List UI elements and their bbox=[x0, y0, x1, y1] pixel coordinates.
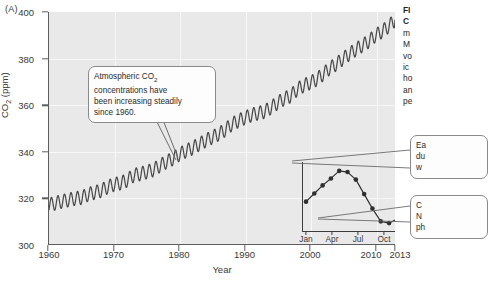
inset-seasonal-cycle: Jan Apr Jul Oct Jan bbox=[286, 162, 395, 245]
ytick-label-340: 340 bbox=[0, 146, 34, 157]
caption-body-line6: an bbox=[403, 85, 492, 96]
xtick-label-2000: 2000 bbox=[299, 249, 320, 260]
inset-xtick-apr: Apr bbox=[326, 234, 339, 244]
caption-body-line4: ic bbox=[403, 62, 492, 73]
callout-right-lower-line2: N bbox=[416, 212, 422, 221]
callout-right-upper: Ea du w bbox=[410, 135, 488, 179]
inset-data-point bbox=[304, 199, 309, 204]
inset-data-point bbox=[370, 206, 375, 211]
ytick-label-380: 380 bbox=[0, 53, 34, 64]
main-plot-area: Jan Apr Jul Oct Jan bbox=[48, 12, 395, 245]
caption-body-line2: M bbox=[403, 39, 492, 50]
xtick-label-1990: 1990 bbox=[234, 249, 255, 260]
caption-head-line2: C bbox=[403, 16, 492, 27]
inset-data-point bbox=[345, 170, 350, 175]
xtick-label-1960: 1960 bbox=[38, 249, 59, 260]
inset-xtick-oct: Oct bbox=[378, 234, 391, 244]
callout-right-upper-line3: w bbox=[416, 163, 422, 172]
callout-right-lower-line3: ph bbox=[416, 223, 425, 232]
caption-head-line1: FI bbox=[403, 5, 492, 16]
xtick-label-2013: 2013 bbox=[389, 249, 410, 260]
callout-right-lower: C N ph bbox=[410, 195, 488, 239]
ytick-label-400: 400 bbox=[0, 7, 34, 18]
caption-body-line1: m bbox=[403, 28, 492, 39]
xtick-label-1970: 1970 bbox=[103, 249, 124, 260]
inset-curve bbox=[286, 162, 395, 245]
callout-main-line4: since 1960. bbox=[94, 108, 136, 117]
ytick-mark bbox=[42, 151, 48, 152]
ytick-label-300: 300 bbox=[0, 240, 34, 251]
inset-data-point bbox=[320, 183, 325, 188]
inset-data-point bbox=[354, 177, 359, 182]
callout-main: Atmospheric CO2 concentrations have been… bbox=[88, 66, 216, 123]
caption-body-line5: ho bbox=[403, 73, 492, 84]
inset-data-point bbox=[378, 219, 383, 224]
ytick-mark bbox=[42, 58, 48, 59]
xtick-label-1980: 1980 bbox=[168, 249, 189, 260]
ytick-mark bbox=[42, 11, 48, 12]
caption-body-line7: pe bbox=[403, 96, 492, 107]
inset-data-point bbox=[337, 169, 342, 174]
callout-right-lower-line1: C bbox=[416, 201, 422, 210]
inset-xtick-jul: Jul bbox=[353, 234, 364, 244]
callout-right-upper-line2: du bbox=[416, 152, 425, 161]
callout-main-line3: been increasing steadily bbox=[94, 97, 182, 106]
caption-body-line3: vo bbox=[403, 51, 492, 62]
xtick-label-2010: 2010 bbox=[360, 249, 381, 260]
y-axis-title: CO2 (ppm) bbox=[0, 72, 12, 118]
figure-caption: FI C m M vo ic ho an pe bbox=[403, 5, 492, 108]
callout-main-line1: Atmospheric CO bbox=[94, 72, 154, 81]
inset-data-point bbox=[329, 176, 334, 181]
x-axis-title: Year bbox=[212, 264, 231, 275]
ytick-label-320: 320 bbox=[0, 193, 34, 204]
inset-xtick-jan-1: Jan bbox=[299, 234, 312, 244]
callout-main-line2: concentrations have bbox=[94, 86, 167, 95]
callout-right-upper-line1: Ea bbox=[416, 141, 426, 150]
ytick-mark bbox=[42, 198, 48, 199]
inset-data-point bbox=[387, 221, 392, 226]
inset-data-point bbox=[362, 192, 367, 197]
ytick-mark bbox=[42, 104, 48, 105]
inset-data-point bbox=[312, 191, 317, 196]
callout-main-sub: 2 bbox=[154, 76, 157, 83]
